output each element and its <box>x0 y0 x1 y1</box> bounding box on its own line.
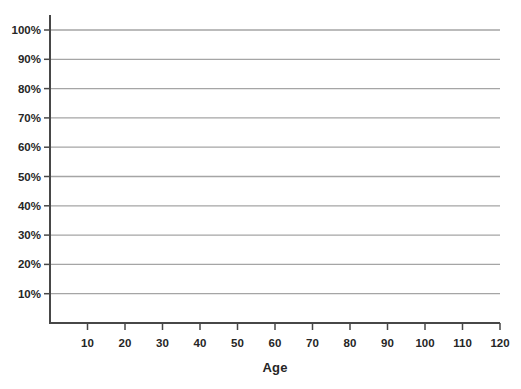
x-tick-label-80: 80 <box>344 337 357 349</box>
y-tick-label-80: 80% <box>18 83 41 95</box>
y-tick-label-90: 90% <box>18 53 41 65</box>
y-tick-label-100: 100% <box>12 24 41 36</box>
x-tick-label-30: 30 <box>156 337 169 349</box>
y-tick-label-50: 50% <box>18 171 41 183</box>
chart-canvas: 10%20%30%40%50%60%70%80%90%100%102030405… <box>0 0 521 389</box>
x-tick-label-50: 50 <box>231 337 244 349</box>
x-tick-label-120: 120 <box>490 337 509 349</box>
x-tick-label-100: 100 <box>415 337 434 349</box>
x-tick-label-20: 20 <box>119 337 132 349</box>
x-tick-label-90: 90 <box>381 337 394 349</box>
y-tick-label-70: 70% <box>18 112 41 124</box>
x-tick-label-10: 10 <box>81 337 94 349</box>
chart-container: 10%20%30%40%50%60%70%80%90%100%102030405… <box>0 0 521 389</box>
x-tick-label-70: 70 <box>306 337 319 349</box>
x-axis-title: Age <box>50 360 500 375</box>
y-tick-label-40: 40% <box>18 200 41 212</box>
x-tick-label-60: 60 <box>269 337 282 349</box>
y-tick-label-20: 20% <box>18 258 41 270</box>
y-tick-label-60: 60% <box>18 141 41 153</box>
y-tick-label-10: 10% <box>18 288 41 300</box>
x-tick-label-40: 40 <box>194 337 207 349</box>
y-tick-label-30: 30% <box>18 229 41 241</box>
x-tick-label-110: 110 <box>453 337 472 349</box>
